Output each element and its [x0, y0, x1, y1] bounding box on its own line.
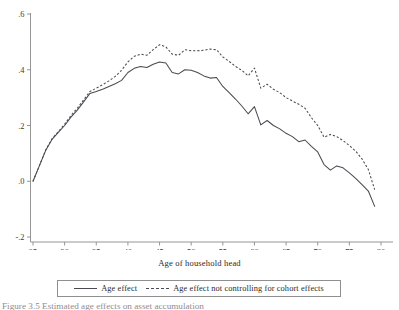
line-chart: -.2.0.2.4.6253035404550556065707580 [0, 0, 399, 250]
legend-entry-age-effect-no-cohort: Age effect not controlling for cohort ef… [146, 284, 324, 293]
x-tick-label: 55 [219, 248, 227, 251]
chart-axes [31, 13, 394, 242]
legend-key-solid-icon [74, 288, 97, 290]
x-tick-label: 35 [92, 248, 100, 251]
x-tick-label: 40 [124, 248, 132, 251]
x-tick-label: 25 [29, 248, 37, 251]
x-tick-label: 30 [60, 248, 68, 251]
y-tick-label: .0 [18, 177, 24, 186]
chart-ticks [27, 14, 381, 246]
legend-entry-age-effect: Age effect [74, 284, 137, 293]
legend-label-age-effect-no-cohort: Age effect not controlling for cohort ef… [173, 284, 324, 293]
x-tick-label: 65 [282, 248, 290, 251]
x-tick-label: 80 [377, 248, 385, 251]
x-tick-label: 60 [250, 248, 258, 251]
y-tick-label: .2 [18, 122, 24, 131]
y-tick-label: .6 [18, 10, 24, 19]
plot-area: -.2.0.2.4.6253035404550556065707580 [0, 0, 399, 250]
x-axis-label: Age of household head [0, 258, 399, 268]
y-tick-label: -.2 [15, 233, 24, 242]
y-tick-label: .4 [18, 66, 25, 75]
chart-legend: Age effect Age effect not controlling fo… [57, 280, 341, 297]
figure-caption: Figure 3.5 Estimated age effects on asse… [2, 301, 399, 310]
chart-tick-labels: -.2.0.2.4.6253035404550556065707580 [15, 10, 385, 250]
series-line-dashed [33, 45, 375, 190]
chart-series [33, 45, 375, 207]
x-tick-label: 50 [187, 248, 195, 251]
legend-key-dashed-icon [146, 288, 169, 290]
figure-container: -.2.0.2.4.6253035404550556065707580 Age … [0, 0, 399, 310]
x-tick-label: 45 [155, 248, 163, 251]
x-tick-label: 70 [314, 248, 322, 251]
x-tick-label: 75 [345, 248, 353, 251]
series-line-solid [33, 62, 375, 206]
legend-label-age-effect: Age effect [101, 284, 137, 293]
